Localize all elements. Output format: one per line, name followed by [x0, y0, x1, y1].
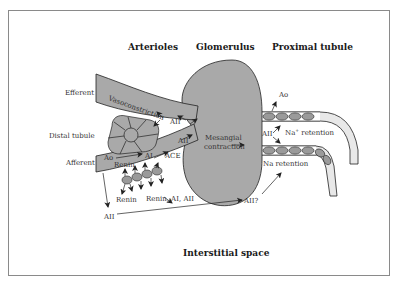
label-ace: ACE: [164, 152, 181, 160]
header-interstitial-space: Interstitial space: [183, 248, 270, 258]
label-ao-afferent: Ao: [103, 154, 113, 162]
label-distal-tubule: Distal tubule: [49, 132, 95, 140]
label-aii-tubule: AII: [261, 130, 273, 138]
juxtaglomerular-cells: [122, 167, 162, 184]
label-renin-afferent: Renin: [114, 161, 135, 169]
label-na-plus-retention: Na+ retention: [285, 128, 335, 137]
header-proximal-tubule: Proximal tubule: [272, 42, 353, 52]
tubule-cells-upper: [262, 112, 320, 121]
label-ai: AI: [144, 152, 153, 160]
label-renin-released: Renin: [116, 196, 137, 204]
label-ao-tubule: Ao: [278, 91, 288, 99]
label-efferent: Efferent: [65, 89, 94, 97]
label-mesangial: Mesangial: [205, 134, 242, 142]
distal-tubule-macula-densa: [108, 115, 159, 154]
label-renin-ai-aii: Renin, AI, AII: [146, 195, 194, 203]
header-arterioles: Arterioles: [127, 42, 178, 52]
label-aii-question: AII?: [243, 197, 259, 205]
label-aii-afferent: AII: [177, 137, 189, 145]
label-afferent: Afferent: [65, 159, 95, 167]
label-aii-efferent: AII: [169, 118, 181, 126]
juxtaglomerular-diagram: Arterioles Glomerulus Proximal tubule In…: [0, 0, 403, 288]
label-contraction: contraction: [204, 143, 245, 151]
header-glomerulus: Glomerulus: [196, 42, 255, 52]
label-aii-interstitial: AII: [103, 213, 115, 221]
label-na-retention: Na retention: [263, 160, 309, 168]
